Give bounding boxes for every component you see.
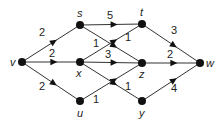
node-label-u: u [77, 107, 83, 119]
arrowhead-icon [170, 60, 177, 66]
arrowhead-icon [111, 59, 118, 65]
edge-weight-x-t: 1 [125, 31, 131, 43]
arrowhead-icon [169, 41, 177, 48]
arrowhead-icon [111, 21, 118, 27]
node-label-s: s [77, 7, 83, 19]
node-label-v: v [10, 56, 17, 68]
edge-weight-z-w: 2 [167, 48, 173, 60]
edge-weight-y-w: 4 [171, 82, 177, 94]
edge-weight-x-z: 3 [105, 48, 111, 60]
arrowhead-icon [109, 39, 117, 45]
arrowhead-icon [49, 79, 57, 86]
node-u [76, 97, 84, 105]
edge-weight-t-w: 3 [171, 24, 177, 36]
edge-weight-v-s: 2 [39, 26, 45, 38]
weighted-directed-graph: 222511311324vsxutzyw [0, 0, 224, 124]
edge-weight-s-z: 1 [93, 37, 99, 49]
edge-weight-v-u: 2 [39, 80, 45, 92]
node-label-y: y [138, 107, 146, 119]
node-label-x: x [75, 67, 82, 79]
node-v [18, 58, 26, 66]
node-w [196, 59, 204, 67]
edge-weight-v-x: 2 [49, 47, 55, 59]
node-label-z: z [138, 68, 145, 80]
edge-weight-s-t: 5 [107, 9, 113, 21]
node-label-t: t [140, 6, 144, 18]
arrowhead-icon [50, 59, 57, 65]
node-x [76, 58, 84, 66]
node-z [138, 59, 146, 67]
node-label-w: w [206, 57, 215, 69]
node-y [138, 97, 146, 105]
node-s [76, 21, 84, 29]
arrowhead-icon [49, 40, 57, 46]
edge-weight-x-y: 1 [125, 80, 131, 92]
node-t [138, 20, 146, 28]
edge-weight-u-z: 1 [93, 93, 99, 105]
